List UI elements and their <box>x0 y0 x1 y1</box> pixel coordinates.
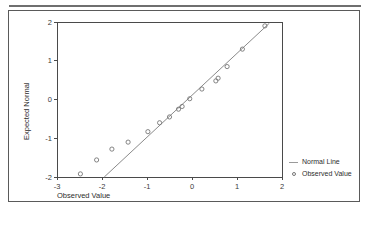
plot-frame-top-right <box>57 22 282 177</box>
normal-line <box>104 23 269 177</box>
x-tick-label: -3 <box>54 182 61 191</box>
data-point <box>200 87 204 91</box>
data-point <box>146 130 150 134</box>
y-tick-label: -2 <box>45 173 52 182</box>
legend-item-observed-value: Observed Value <box>288 168 356 180</box>
data-point <box>110 147 114 151</box>
y-tick-label: -1 <box>45 134 52 143</box>
qq-plot: 210-1-2-3-2-1012Observed ValueExpected N… <box>0 0 370 228</box>
data-point <box>214 79 218 83</box>
x-axis-title: Observed Value <box>57 191 110 200</box>
x-tick-label: 0 <box>190 182 194 191</box>
data-point <box>78 172 82 176</box>
plot-axes <box>57 22 282 177</box>
x-tick-label: 2 <box>280 182 284 191</box>
observed-points <box>78 24 267 176</box>
data-point <box>126 140 130 144</box>
y-tick-label: 1 <box>48 56 52 65</box>
data-point <box>95 158 99 162</box>
legend-item-normal-line: Normal Line <box>288 156 356 168</box>
y-tick-label: 0 <box>48 95 52 104</box>
x-tick-label: -1 <box>144 182 151 191</box>
x-tick-label: 1 <box>235 182 239 191</box>
x-tick-label: -2 <box>99 182 106 191</box>
line-swatch-icon <box>288 162 299 163</box>
y-axis-title: Expected Normal <box>22 82 31 140</box>
legend-label-observed-value: Observed Value <box>302 169 352 179</box>
chart-legend: Normal Line Observed Value <box>288 156 356 180</box>
circle-marker-icon <box>288 172 299 176</box>
data-point <box>225 64 229 68</box>
data-point <box>158 121 162 125</box>
y-tick-label: 2 <box>48 18 52 27</box>
chart-page: 210-1-2-3-2-1012Observed ValueExpected N… <box>0 0 370 228</box>
data-point <box>216 76 220 80</box>
legend-label-normal-line: Normal Line <box>302 157 340 167</box>
